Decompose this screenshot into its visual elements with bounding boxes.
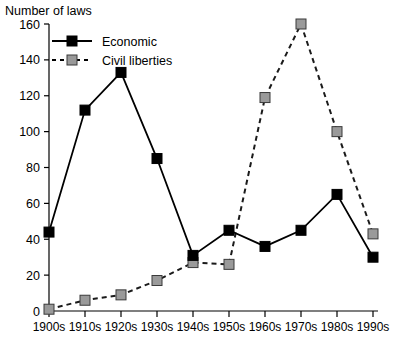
y-axis-tick-label: 140 (19, 53, 40, 67)
x-axis-tick-label: 1980s (321, 320, 354, 334)
data-point-marker (152, 154, 162, 164)
chart-canvas: 020406080100120140160 1900s1910s1920s193… (0, 0, 395, 342)
data-point-marker (224, 259, 234, 269)
x-axis-tick-label: 1990s (357, 320, 390, 334)
data-point-marker (80, 105, 90, 115)
data-point-marker (332, 189, 342, 199)
x-axis: 1900s1910s1920s1930s1940s1950s1960s1970s… (33, 311, 390, 334)
data-point-marker (44, 304, 54, 314)
x-axis-tick-label: 1950s (213, 320, 246, 334)
chart-legend: EconomicCivil liberties (52, 35, 172, 68)
x-axis-tick-label: 1910s (69, 320, 102, 334)
data-point-marker (80, 295, 90, 305)
y-axis-tick-label: 120 (19, 89, 40, 103)
data-point-marker (368, 229, 378, 239)
data-point-marker (368, 252, 378, 262)
data-point-marker (332, 127, 342, 137)
x-axis-tick-label: 1940s (177, 320, 210, 334)
data-point-marker (116, 290, 126, 300)
y-axis: 020406080100120140160 (19, 18, 49, 319)
legend-marker-civil-liberties (67, 55, 77, 65)
legend-label-civil-liberties: Civil liberties (102, 54, 172, 68)
x-axis-tick-label: 1930s (141, 320, 174, 334)
data-point-marker (188, 250, 198, 260)
data-point-marker (44, 227, 54, 237)
y-axis-tick-label: 100 (19, 125, 40, 139)
data-point-marker (260, 241, 270, 251)
data-point-marker (296, 225, 306, 235)
x-axis-tick-label: 1920s (105, 320, 138, 334)
data-point-marker (152, 276, 162, 286)
y-axis-tick-label: 40 (26, 233, 40, 247)
data-series-group (44, 19, 378, 314)
data-point-marker (296, 19, 306, 29)
legend-marker-economic (67, 36, 77, 46)
series-line-civil-liberties (49, 24, 373, 309)
y-axis-tick-label: 20 (26, 269, 40, 283)
data-point-marker (224, 225, 234, 235)
y-axis-tick-label: 60 (26, 197, 40, 211)
series-line-economic (49, 72, 373, 257)
y-axis-tick-label: 80 (26, 161, 40, 175)
line-chart: Number of laws 020406080100120140160 190… (0, 0, 395, 342)
x-axis-tick-label: 1970s (285, 320, 318, 334)
x-axis-tick-label: 1960s (249, 320, 282, 334)
data-point-marker (260, 93, 270, 103)
y-axis-tick-label: 0 (33, 305, 40, 319)
x-axis-tick-label: 1900s (33, 320, 66, 334)
y-axis-tick-label: 160 (19, 18, 40, 32)
legend-label-economic: Economic (102, 35, 157, 49)
data-point-marker (116, 67, 126, 77)
